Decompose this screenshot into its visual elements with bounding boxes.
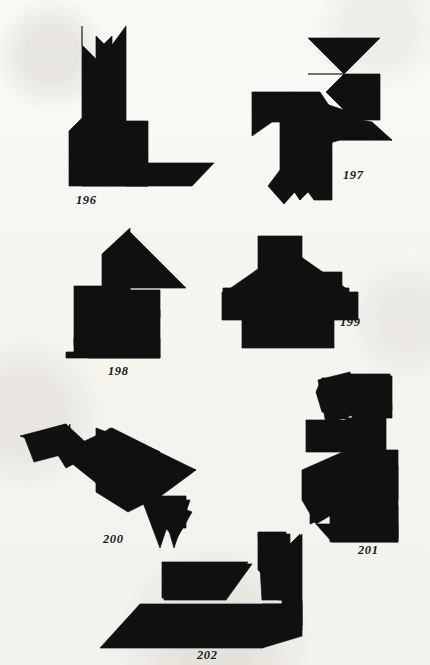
figure-caption-198: 198 xyxy=(108,364,129,379)
figure-199-shape xyxy=(222,236,358,348)
tangram-piece xyxy=(164,564,252,600)
figure-caption-197: 197 xyxy=(343,168,364,183)
figure-200-shape xyxy=(20,424,196,548)
tangram-piece xyxy=(128,230,186,288)
tangram-piece xyxy=(66,352,160,358)
tangram-piece xyxy=(102,228,130,290)
figure-caption-199: 199 xyxy=(340,315,361,330)
figure-caption-202: 202 xyxy=(197,648,218,663)
figure-caption-196: 196 xyxy=(76,193,97,208)
figure-196-shape xyxy=(69,26,214,186)
figure-197-shape xyxy=(252,38,392,204)
tangram-figures-svg xyxy=(0,0,430,665)
figures-container xyxy=(0,0,430,665)
figure-caption-200: 200 xyxy=(103,532,124,547)
tangram-piece xyxy=(306,420,352,452)
tangram-piece xyxy=(222,292,248,320)
figure-201-shape xyxy=(302,372,398,542)
tangram-piece xyxy=(352,376,392,418)
figure-caption-201: 201 xyxy=(358,543,379,558)
tangram-page: 196 197 198 199 200 201 202 xyxy=(0,0,430,665)
tangram-piece xyxy=(242,292,334,348)
tangram-piece xyxy=(308,38,380,74)
figure-198-shape xyxy=(66,228,186,358)
tangram-piece xyxy=(330,506,398,542)
figure-202-shape xyxy=(100,532,302,648)
